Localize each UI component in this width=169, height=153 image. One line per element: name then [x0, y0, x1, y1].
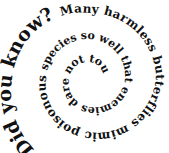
- spiral-text-graphic: Did you know? Many harmless butterflies …: [0, 0, 169, 153]
- spiral-text: Did you know? Many harmless butterflies …: [0, 0, 167, 153]
- headline-did-you-know: Did you know?: [0, 0, 63, 153]
